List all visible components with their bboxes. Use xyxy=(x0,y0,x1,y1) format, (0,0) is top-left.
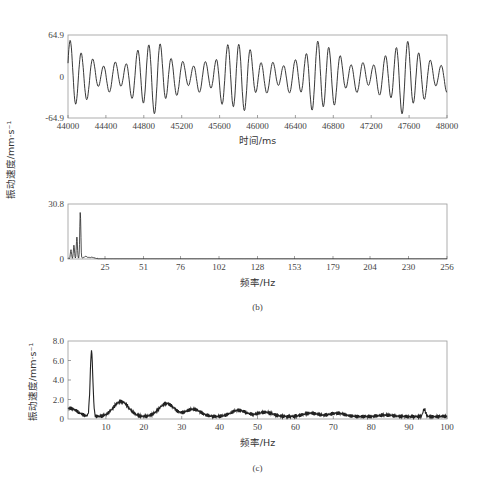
x-tick-label: 45600 xyxy=(208,121,231,131)
plot-frame xyxy=(68,341,447,419)
x-tick-label: 80 xyxy=(367,422,377,432)
y-tick-label: 64.9 xyxy=(48,30,64,40)
x-tick-label: 46000 xyxy=(246,121,269,131)
figure-canvas: 64.90-64.9440004440044800452004560046000… xyxy=(0,0,481,494)
y-axis-label: 振动速度/mm·s⁻¹ xyxy=(27,343,38,422)
spectrum-line xyxy=(68,213,447,259)
x-tick-label: 40 xyxy=(215,422,225,432)
x-tick-label: 20 xyxy=(139,422,149,432)
x-tick-label: 204 xyxy=(363,262,377,272)
x-tick-label: 47200 xyxy=(360,121,383,131)
plot-frame xyxy=(68,35,447,118)
y-tick-label: 6.0 xyxy=(53,356,65,366)
x-tick-label: 76 xyxy=(176,262,186,272)
x-tick-label: 30 xyxy=(177,422,187,432)
x-tick-label: 44400 xyxy=(95,121,118,131)
x-axis-label: 时间/ms xyxy=(239,135,276,146)
y-tick-label: 2.0 xyxy=(53,395,65,405)
x-tick-label: 44000 xyxy=(57,121,80,131)
x-tick-label: 25 xyxy=(101,262,111,272)
x-tick-label: 153 xyxy=(288,262,302,272)
x-tick-label: 51 xyxy=(139,262,148,272)
y-tick-label: 4.0 xyxy=(53,375,65,385)
y-tick-label: 0 xyxy=(60,254,65,264)
x-tick-label: 90 xyxy=(405,422,415,432)
spectrum-line xyxy=(68,350,447,418)
y-tick-label: 0 xyxy=(60,72,65,82)
waveform-line xyxy=(68,40,447,113)
y-tick-label: 0 xyxy=(60,414,65,424)
x-tick-label: 45200 xyxy=(170,121,193,131)
chart-a-time-waveform: 64.90-64.9440004440044800452004560046000… xyxy=(45,30,459,146)
plot-frame xyxy=(68,204,447,259)
chart-c-spectrum: 8.06.04.02.00102030405060708090100频率/Hz(… xyxy=(27,336,454,473)
x-tick-label: 44800 xyxy=(133,121,156,131)
x-tick-label: 230 xyxy=(402,262,416,272)
y-tick-label: 8.0 xyxy=(53,336,65,346)
x-tick-label: 60 xyxy=(291,422,301,432)
x-tick-label: 70 xyxy=(329,422,339,432)
x-tick-label: 46800 xyxy=(322,121,345,131)
x-axis-label: 频率/Hz xyxy=(240,437,275,448)
x-tick-label: 48000 xyxy=(436,121,459,131)
x-tick-label: 46400 xyxy=(284,121,307,131)
chart-b-spectrum: 30.80255176102128153179204230256频率/Hz(b) xyxy=(48,199,454,312)
y-axis-label: 振动速度/mm·s⁻¹ xyxy=(5,121,16,200)
x-axis-label: 频率/Hz xyxy=(240,277,275,288)
x-tick-label: 50 xyxy=(253,422,263,432)
caption-c: (c) xyxy=(253,463,263,473)
y-tick-label: 30.8 xyxy=(48,199,64,209)
x-tick-label: 47600 xyxy=(398,121,421,131)
caption-b: (b) xyxy=(252,302,263,312)
x-tick-label: 100 xyxy=(440,422,454,432)
x-tick-label: 179 xyxy=(326,262,340,272)
x-tick-label: 10 xyxy=(101,422,111,432)
x-tick-label: 128 xyxy=(251,262,265,272)
x-tick-label: 102 xyxy=(212,262,226,272)
x-tick-label: 256 xyxy=(440,262,454,272)
